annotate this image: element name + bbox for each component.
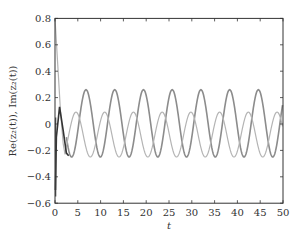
series-re [66, 90, 282, 157]
y-axis-label: Re(z₂(t)), Im(z₂(t)) [7, 65, 18, 156]
x-tick-label: 25 [163, 207, 176, 218]
x-axis-ticks: 05101520253035404550 [52, 18, 290, 218]
x-tick-label: 20 [140, 207, 153, 218]
y-tick-label: −0.4 [27, 171, 51, 182]
y-tick-label: 0.4 [35, 66, 51, 77]
x-axis-label: t [167, 220, 172, 231]
x-tick-label: 0 [52, 207, 58, 218]
x-tick-label: 50 [277, 207, 290, 218]
x-tick-label: 35 [208, 207, 221, 218]
plot-curves [55, 18, 283, 196]
x-tick-label: 5 [75, 207, 81, 218]
line-chart: 05101520253035404550 −0.6−0.4−0.200.20.4… [0, 0, 301, 235]
y-tick-label: 0.2 [35, 92, 51, 103]
y-tick-label: −0.6 [27, 198, 51, 209]
y-tick-label: −0.2 [27, 145, 51, 156]
x-tick-label: 30 [185, 207, 198, 218]
x-tick-label: 45 [254, 207, 267, 218]
series-transient [55, 107, 68, 190]
y-tick-label: 0.6 [35, 39, 51, 50]
x-tick-label: 10 [94, 207, 107, 218]
y-tick-label: 0.8 [35, 13, 51, 24]
x-tick-label: 15 [117, 207, 130, 218]
x-tick-label: 40 [231, 207, 244, 218]
plot-frame [55, 18, 283, 203]
y-axis-ticks: −0.6−0.4−0.200.20.40.60.8 [27, 13, 283, 209]
y-tick-label: 0 [45, 119, 51, 130]
series-im [55, 18, 283, 157]
